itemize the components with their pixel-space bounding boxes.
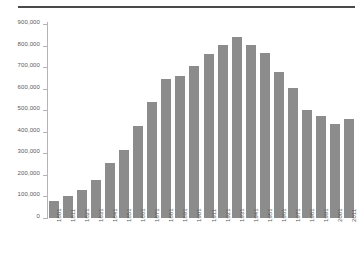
bar-column[interactable] <box>246 24 256 218</box>
x-axis-tick-label-text: 1931 <box>239 208 245 222</box>
x-axis-tick-label-text: 1941 <box>253 208 259 222</box>
bar-column[interactable] <box>316 24 326 218</box>
bar-column[interactable] <box>105 24 115 218</box>
bar-column[interactable] <box>274 24 284 218</box>
x-axis-tick-label-text: 2011 <box>351 209 357 222</box>
bar[interactable] <box>330 124 340 218</box>
y-axis-tick-label: 700,000 <box>18 62 40 68</box>
bar-column[interactable] <box>344 24 354 218</box>
bar[interactable] <box>316 116 326 218</box>
bar[interactable] <box>246 45 256 218</box>
bar-column[interactable] <box>63 24 73 218</box>
y-axis-tick-label: 100,000 <box>18 191 40 197</box>
y-axis-tick-mark <box>43 218 47 219</box>
bar-column[interactable] <box>232 24 242 218</box>
x-axis-tick-label-text: 1811 <box>70 209 76 222</box>
bar[interactable] <box>344 119 354 218</box>
bar-chart-figure: 900,000800,000700,000600,000500,000400,0… <box>0 0 364 259</box>
bar-column[interactable] <box>189 24 199 218</box>
x-axis-tick-label-text: 1831 <box>98 208 104 222</box>
bar[interactable] <box>274 72 284 218</box>
x-axis-tick-label-text: 1871 <box>154 208 160 222</box>
x-axis-tick-label-text: 1861 <box>140 208 146 222</box>
bar-column[interactable] <box>302 24 312 218</box>
x-axis-tick-label-text: 1841 <box>112 208 118 222</box>
x-axis-tick-label-text: 1991 <box>323 208 329 222</box>
bar-column[interactable] <box>175 24 185 218</box>
bar[interactable] <box>133 126 143 218</box>
bar[interactable] <box>147 102 157 218</box>
x-axis-tick-label-text: 1951 <box>267 208 273 222</box>
y-axis-tick-label: 300,000 <box>18 148 40 154</box>
x-axis-tick-label-text: 1891 <box>182 208 188 222</box>
bar-column[interactable] <box>330 24 340 218</box>
bar[interactable] <box>302 110 312 218</box>
bar[interactable] <box>161 79 171 218</box>
bar-column[interactable] <box>288 24 298 218</box>
y-axis-tick-label: 400,000 <box>18 127 40 133</box>
bar[interactable] <box>204 54 214 218</box>
x-axis-tick-label-text: 1971 <box>295 208 301 222</box>
top-divider-rule <box>18 6 355 8</box>
bar[interactable] <box>175 76 185 218</box>
y-axis-tick-label: 500,000 <box>18 105 40 111</box>
bar-column[interactable] <box>91 24 101 218</box>
bar-column[interactable] <box>218 24 228 218</box>
x-axis-tick-label-text: 1921 <box>225 208 231 222</box>
x-axis-tick-label-text: 1961 <box>281 208 287 222</box>
x-axis-tick-label-text: 1821 <box>84 208 90 222</box>
y-axis-tick-label: 800,000 <box>18 41 40 47</box>
y-axis-tick-label: 0 <box>37 213 40 219</box>
bar[interactable] <box>218 45 228 218</box>
bar-column[interactable] <box>204 24 214 218</box>
x-axis-tick-label-text: 1911 <box>211 209 217 222</box>
x-axis-tick-label-text: 1901 <box>196 208 202 222</box>
bar[interactable] <box>232 37 242 218</box>
bar-column[interactable] <box>77 24 87 218</box>
bar-column[interactable] <box>49 24 59 218</box>
bar-column[interactable] <box>161 24 171 218</box>
x-axis-tick-label-text: 1801 <box>56 208 62 222</box>
plot-area <box>47 24 356 218</box>
bar-column[interactable] <box>133 24 143 218</box>
bar-column[interactable] <box>260 24 270 218</box>
x-axis-tick-label-text: 1851 <box>126 208 132 222</box>
bar-column[interactable] <box>147 24 157 218</box>
y-axis-tick-label: 200,000 <box>18 170 40 176</box>
x-axis-tick-label-text: 2001 <box>337 208 343 222</box>
bar[interactable] <box>260 53 270 218</box>
bar-column[interactable] <box>119 24 129 218</box>
y-axis-tick-label: 900,000 <box>18 19 40 25</box>
y-axis-tick-label: 600,000 <box>18 84 40 90</box>
bar[interactable] <box>288 88 298 218</box>
x-axis-tick-label-text: 1881 <box>168 208 174 222</box>
x-axis-tick-label-text: 1981 <box>309 208 315 222</box>
bar[interactable] <box>189 66 199 218</box>
